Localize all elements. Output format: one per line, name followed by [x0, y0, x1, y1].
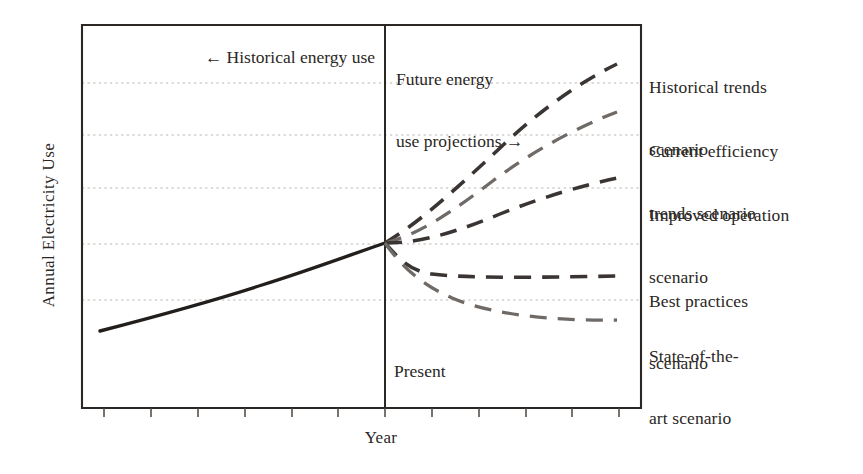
scenario-label-line-1: Historical trends	[649, 77, 861, 98]
figure-container: Annual Electricity Use Year ← Historical…	[0, 0, 863, 474]
future-band-line-2: use projections →	[396, 131, 572, 152]
series-historical-line	[100, 243, 385, 331]
scenario-label-line-1: State-of-the-	[649, 346, 861, 367]
x-axis-title: Year	[281, 428, 481, 448]
scenario-label-line-2: art scenario	[649, 408, 861, 429]
historical-band-label: ← Historical energy use	[123, 47, 375, 68]
x-axis-ticks	[104, 408, 619, 417]
future-band-label: Future energy use projections →	[396, 28, 572, 193]
series-best-practices-line	[385, 243, 617, 277]
present-label: Present	[394, 361, 446, 382]
scenario-label-line-1: Current efficiency	[649, 141, 861, 162]
scenario-label-line-1: Improved operation	[649, 205, 861, 226]
y-axis-title: Annual Electricity Use	[39, 110, 59, 340]
series-state-of-the-art-line	[385, 243, 617, 320]
future-band-line-1: Future energy	[396, 69, 572, 90]
scenario-label-state-of-the-art: State-of-the- art scenario	[649, 305, 861, 470]
